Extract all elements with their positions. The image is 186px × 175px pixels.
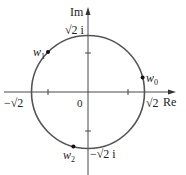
complex-plane-diagram: Im Re 0 √2 i −√2 i √2 −√2 w1 w0 w2 bbox=[0, 0, 186, 175]
label-w1: w1 bbox=[33, 45, 45, 61]
point-w1 bbox=[46, 50, 50, 54]
label-neg-real: −√2 bbox=[4, 96, 23, 110]
label-w0: w0 bbox=[146, 71, 158, 87]
label-pos-real: √2 bbox=[146, 96, 159, 110]
imag-axis-label: Im bbox=[70, 5, 84, 19]
label-neg-imag: −√2 i bbox=[90, 147, 116, 161]
origin-label: 0 bbox=[77, 97, 83, 109]
real-axis-arrow-icon bbox=[168, 90, 176, 95]
imag-axis-arrow-icon bbox=[86, 7, 91, 15]
label-pos-imag: √2 i bbox=[65, 23, 85, 37]
point-w0 bbox=[141, 75, 145, 79]
real-axis-label: Re bbox=[163, 95, 176, 109]
label-w2: w2 bbox=[63, 148, 75, 164]
point-w2 bbox=[71, 145, 75, 149]
